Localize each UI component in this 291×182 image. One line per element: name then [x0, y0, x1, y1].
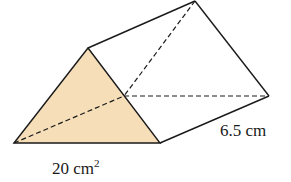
- area-label: 20 cm2: [52, 160, 100, 177]
- triangular-prism-figure: [0, 0, 291, 182]
- top-edge: [88, 1, 195, 48]
- back-right-edge: [195, 1, 269, 96]
- length-label: 6.5 cm: [220, 122, 266, 139]
- hidden-back-left-edge: [124, 1, 195, 96]
- front-triangle-face: [14, 48, 160, 143]
- area-value: 20 cm: [52, 159, 94, 178]
- area-exponent: 2: [94, 157, 100, 169]
